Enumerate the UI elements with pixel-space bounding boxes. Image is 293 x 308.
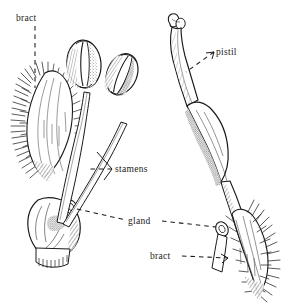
label-bract-left: bract — [16, 14, 37, 24]
staminate-flower-drawing — [11, 39, 144, 268]
gland-right-stalk — [212, 234, 227, 272]
anther-1 — [65, 39, 103, 90]
label-stamens: stamens — [115, 165, 148, 175]
gland-right-shape — [212, 220, 231, 272]
ovary-right-outline — [187, 102, 228, 182]
gland-left-leader-line — [77, 209, 126, 220]
label-pistil: pistil — [216, 48, 237, 58]
anther-2 — [100, 49, 144, 100]
stamens-bracket-lower — [104, 169, 112, 180]
illustration-canvas — [0, 0, 293, 308]
stigma-shape — [168, 14, 185, 29]
label-gland: gland — [128, 217, 151, 227]
label-bract-right: bract — [150, 252, 171, 262]
pistil-leader-line — [186, 52, 214, 72]
style-shape — [171, 27, 198, 108]
stigma-lobe-right — [176, 18, 185, 29]
pedicel-stub-left — [36, 248, 70, 267]
ovary-right-shape — [185, 102, 228, 186]
gland-right-leader-line — [162, 221, 216, 227]
bract-right-shape — [226, 200, 280, 302]
botanical-figure: bract stamens gland pistil bract — [0, 0, 293, 308]
